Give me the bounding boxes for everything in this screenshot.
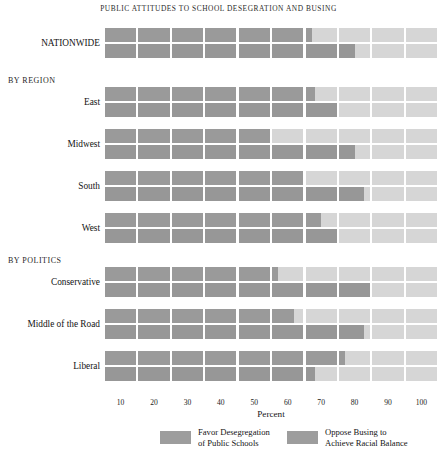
bar-segment-fill [272, 28, 303, 42]
bar-segment-fill [239, 309, 270, 323]
bar-segment [105, 187, 136, 201]
bar-oppose [105, 367, 437, 381]
bar-segment-fill [339, 351, 345, 365]
bar-segment [272, 145, 303, 159]
bar-segment-fill [205, 103, 236, 117]
row-label-midwest: Midwest [67, 139, 100, 149]
bar-segment-fill [105, 28, 136, 42]
footnote-cropped [0, 461, 437, 468]
bar-segment [339, 103, 370, 117]
bar-segment [239, 187, 270, 201]
bar-segment [372, 283, 403, 297]
group-heading-by-politics: BY POLITICS [8, 256, 61, 265]
x-axis-tick: 10 [117, 398, 125, 407]
bar-segment-fill [272, 103, 303, 117]
bar-segment [105, 145, 136, 159]
bar-segment-fill [272, 171, 303, 185]
bar-segment-fill [306, 103, 337, 117]
row-label-east: East [84, 97, 100, 107]
bar-segment [172, 129, 203, 143]
bar-segment [372, 44, 403, 58]
bar-segment [239, 229, 270, 243]
row-label-conservative: Conservative [51, 277, 100, 287]
x-axis-tick: 90 [384, 398, 392, 407]
bar-segment [339, 129, 370, 143]
bar-segment-fill [172, 367, 203, 381]
bar-pair [105, 171, 437, 201]
legend-label-favor-line1: Favor Desegregation [198, 427, 270, 438]
bar-segment [172, 213, 203, 227]
bar-segment-fill [172, 28, 203, 42]
bar-segment [272, 87, 303, 101]
bar-segment [239, 309, 270, 323]
bar-segment [239, 283, 270, 297]
bar-segment [239, 87, 270, 101]
bar-segment-fill [138, 87, 169, 101]
bar-segment [172, 283, 203, 297]
bar-segment [306, 267, 337, 281]
bar-segment-fill [205, 367, 236, 381]
bar-segment [406, 87, 437, 101]
bar-segment-fill [239, 283, 270, 297]
bar-segment [105, 283, 136, 297]
bar-segment [205, 325, 236, 339]
bar-segment [239, 145, 270, 159]
bar-segment [172, 229, 203, 243]
bar-segment [406, 103, 437, 117]
bar-segment [306, 325, 337, 339]
bar-segment-fill [239, 267, 270, 281]
bar-segment-fill [138, 103, 169, 117]
bar-segment [138, 103, 169, 117]
bar-segment-fill [272, 351, 303, 365]
bar-segment [272, 267, 303, 281]
bar-segment [138, 229, 169, 243]
bar-favor [105, 28, 437, 42]
x-axis-title: Percent [105, 409, 437, 419]
bar-segment-fill [172, 283, 203, 297]
bar-segment [105, 267, 136, 281]
bar-segment-fill [339, 283, 370, 297]
bar-segment-fill [306, 87, 315, 101]
chart-root: PUBLIC ATTITUDES TO SCHOOL DESEGRATION A… [0, 0, 437, 468]
bar-segment [105, 367, 136, 381]
bar-segment [138, 309, 169, 323]
bar-pair [105, 129, 437, 159]
bar-segment [372, 267, 403, 281]
bar-segment [105, 28, 136, 42]
bar-oppose [105, 145, 437, 159]
bar-segment-fill [205, 44, 236, 58]
bar-segment-fill [172, 351, 203, 365]
bar-segment-fill [172, 213, 203, 227]
bar-segment-fill [205, 325, 236, 339]
bar-segment-fill [339, 325, 364, 339]
bar-segment-fill [339, 145, 355, 159]
bar-segment [339, 87, 370, 101]
bar-segment-fill [138, 44, 169, 58]
bar-favor [105, 171, 437, 185]
bar-segment [205, 351, 236, 365]
bar-segment-fill [138, 283, 169, 297]
bar-segment [406, 351, 437, 365]
bar-segment-fill [272, 44, 303, 58]
bar-segment [172, 145, 203, 159]
bar-segment [339, 171, 370, 185]
bar-segment [306, 145, 337, 159]
bar-segment [272, 367, 303, 381]
bar-segment [172, 325, 203, 339]
bar-segment [205, 44, 236, 58]
bar-segment [138, 145, 169, 159]
bar-segment-fill [205, 213, 236, 227]
bar-segment [272, 351, 303, 365]
bar-pair [105, 267, 437, 297]
x-axis-tick: 70 [317, 398, 325, 407]
bar-segment [205, 187, 236, 201]
bar-segment [205, 87, 236, 101]
bar-segment-fill [172, 44, 203, 58]
row-label-middle-of-the-road: Middle of the Road [27, 319, 100, 329]
bar-segment-fill [172, 325, 203, 339]
bar-segment [306, 187, 337, 201]
bar-favor [105, 213, 437, 227]
bar-segment-fill [105, 129, 136, 143]
bar-segment [105, 44, 136, 58]
bar-segment-fill [138, 171, 169, 185]
